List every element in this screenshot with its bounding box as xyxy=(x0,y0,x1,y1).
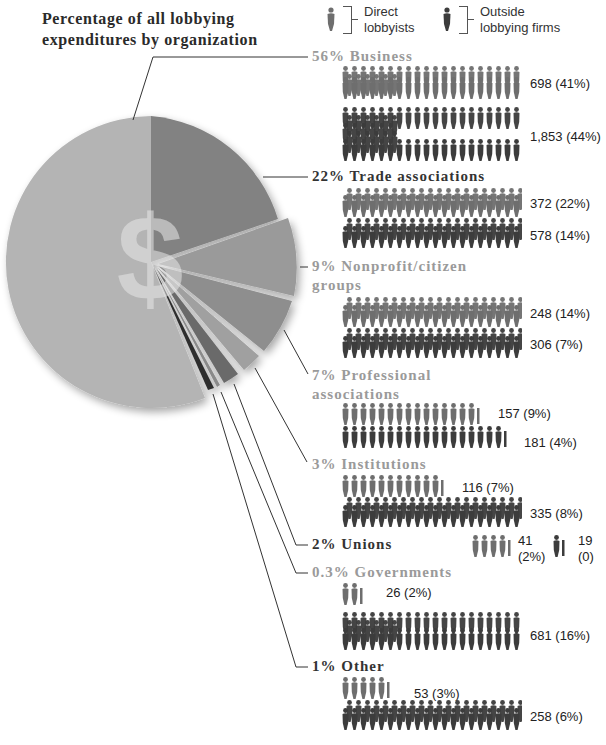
heading-governments: 0.3% Governments xyxy=(312,563,452,582)
legend-item-outside: Outside lobbying firms xyxy=(442,4,560,36)
unions-direct-count: 41 xyxy=(518,533,545,549)
legend-direct-line1: Direct xyxy=(364,4,415,20)
unions-outside-value: 19 (0) xyxy=(578,533,594,565)
legend-item-direct: Direct lobbyists xyxy=(326,4,415,36)
leader-line-institutions xyxy=(255,368,307,462)
governments-outside-value: 681 (16%) xyxy=(530,628,590,643)
person-icon-direct xyxy=(326,7,336,31)
heading-nonprofit-line1: 9% Nonprofit/citizen xyxy=(312,257,467,276)
professional-direct-value: 157 (9%) xyxy=(498,406,551,421)
governments-outside-row: 681 (16%) xyxy=(342,612,590,658)
trade-outside-value: 578 (14%) xyxy=(530,228,590,243)
heading-other: 1% Other xyxy=(312,657,385,676)
svg-text:$: $ xyxy=(117,191,184,325)
trade-outside-row: 578 (14%) xyxy=(342,218,590,252)
person-icons-professional-outside xyxy=(342,426,512,450)
leader-line-governments xyxy=(221,392,308,573)
other-direct-row: 53 (3%) xyxy=(342,676,460,701)
institutions-outside-row: 335 (8%) xyxy=(342,497,583,529)
trade-direct-row: 372 (22%) xyxy=(342,188,590,218)
professional-outside-row: 181 (4%) xyxy=(342,425,577,450)
other-outside-row: 258 (6%) xyxy=(342,700,583,732)
bracket-icon xyxy=(459,6,468,34)
institutions-direct-value: 116 (7%) xyxy=(462,480,514,495)
nonprofit-direct-row: 248 (14%) xyxy=(342,297,590,329)
other-direct-value: 53 (3%) xyxy=(414,686,460,701)
institutions-direct-row: 116 (7%) xyxy=(342,475,514,499)
person-icons-governments-direct xyxy=(342,583,372,607)
person-icons-other-outside xyxy=(342,700,522,732)
professional-direct-row: 157 (9%) xyxy=(342,403,551,427)
leader-line-other xyxy=(213,394,308,667)
business-outside-row: 1,853 (44%) xyxy=(342,107,601,165)
governments-direct-value: 26 (2%) xyxy=(386,585,432,600)
nonprofit-direct-value: 248 (14%) xyxy=(530,306,590,321)
person-icons-business-outside xyxy=(342,107,522,165)
heading-trade-associations: 22% Trade associations xyxy=(312,167,485,186)
heading-unions: 2% Unions xyxy=(312,535,392,554)
trade-direct-value: 372 (22%) xyxy=(530,196,590,211)
nonprofit-outside-row: 306 (7%) xyxy=(342,328,583,360)
business-outside-value: 1,853 (44%) xyxy=(530,129,601,144)
person-icons-trade-direct xyxy=(342,188,522,218)
unions-outside-count: 19 xyxy=(578,533,594,549)
heading-business: 56% Business xyxy=(312,47,413,66)
unions-direct-row xyxy=(472,535,512,559)
person-icons-business-direct xyxy=(342,66,522,100)
legend-outside-line2: lobbying firms xyxy=(480,20,560,36)
person-icons-governments-outside xyxy=(342,612,522,658)
unions-direct-pct: (2%) xyxy=(518,549,545,565)
leader-line-business xyxy=(133,57,308,120)
business-direct-row: 698 (41%) xyxy=(342,66,590,100)
person-icons-other-direct xyxy=(342,677,392,701)
person-icons-nonprofit-direct xyxy=(342,297,522,329)
leader-line-professional xyxy=(284,330,308,374)
professional-outside-value: 181 (4%) xyxy=(524,435,577,450)
heading-nonprofit-line2: groups xyxy=(312,276,467,295)
person-icons-nonprofit-outside xyxy=(342,328,522,360)
heading-institutions: 3% Institutions xyxy=(312,455,427,474)
institutions-outside-value: 335 (8%) xyxy=(530,506,583,521)
legend-direct-line2: lobbyists xyxy=(364,20,415,36)
person-icons-institutions-outside xyxy=(342,497,522,529)
heading-professional-line2: associations xyxy=(312,385,431,404)
leader-line-unions xyxy=(234,384,308,545)
person-icons-trade-outside xyxy=(342,218,522,252)
legend-outside-line1: Outside xyxy=(480,4,560,20)
nonprofit-outside-value: 306 (7%) xyxy=(530,337,583,352)
person-icons-unions-direct xyxy=(472,535,512,559)
person-icon-outside xyxy=(442,7,452,31)
business-direct-value: 698 (41%) xyxy=(530,76,590,91)
dollar-sign-icon: $ xyxy=(117,191,184,325)
governments-direct-row: 26 (2%) xyxy=(342,583,432,607)
person-icons-professional-direct xyxy=(342,403,492,427)
heading-professional-line1: 7% Professional xyxy=(312,366,431,385)
person-icons-institutions-direct xyxy=(342,475,452,499)
heading-nonprofit: 9% Nonprofit/citizen groups xyxy=(312,257,467,295)
bracket-icon xyxy=(343,6,352,34)
unions-outside-row xyxy=(553,535,573,559)
heading-professional: 7% Professional associations xyxy=(312,366,431,404)
other-outside-value: 258 (6%) xyxy=(530,709,583,724)
unions-direct-value: 41 (2%) xyxy=(518,533,545,565)
unions-outside-pct: (0) xyxy=(578,549,594,565)
person-icons-unions-outside xyxy=(553,535,573,559)
